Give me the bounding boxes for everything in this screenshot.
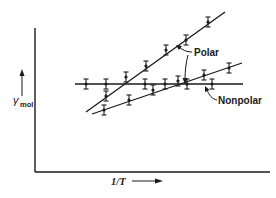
polar-arrowhead-upper-icon [176,45,182,50]
series-polar-0 [86,12,225,112]
data-point-errorbar [127,95,132,105]
polar-arrow-lower [185,55,188,79]
y-arrowhead-icon [20,69,25,76]
nonpolar-label: Nonpolar [218,95,262,106]
y-axis-label-sub: mol [20,100,33,109]
y-axis-label: γ mol [13,69,33,109]
chart: γ mol 1/T Polar Nonpolar [0,0,276,198]
x-arrowhead-icon [155,179,163,184]
y-axis-label-main: γ [13,94,20,106]
data-point-errorbar [124,72,129,82]
x-axis-label: 1/T [111,176,163,187]
nonpolar-arrow [207,90,217,100]
series-nonpolar-2 [75,79,243,89]
data-point-errorbar [184,35,189,45]
polar-arrow-upper [179,47,192,52]
x-axis-label-text: 1/T [111,176,126,187]
polar-label: Polar [194,47,219,58]
